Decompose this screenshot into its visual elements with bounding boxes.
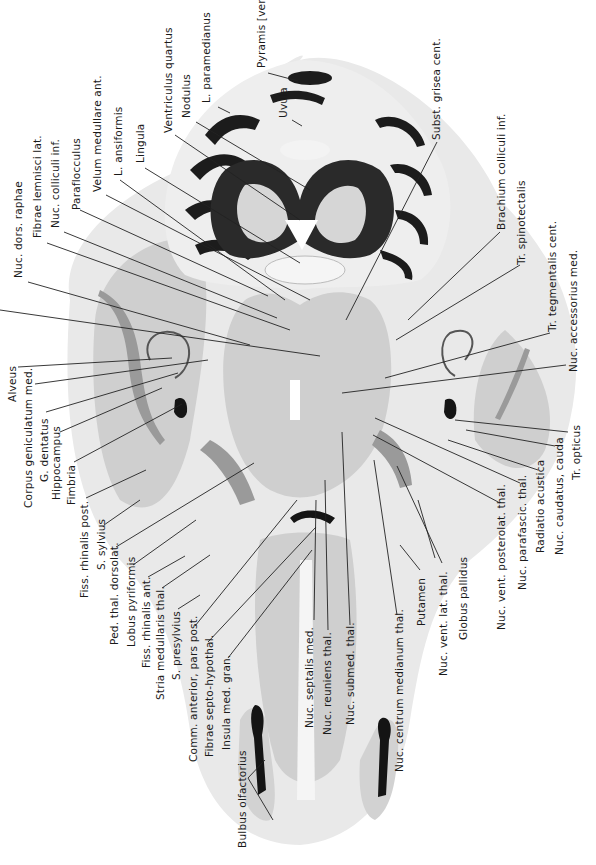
label-nuc-accessorius-med: Nuc. accessorius med. (567, 250, 579, 372)
label-lingula: Lingula (134, 124, 146, 164)
label-corpus-geniculatum-med: Corpus geniculatum med. (22, 368, 34, 508)
label-ventriculus-quartus: Ventriculus quartus (162, 27, 174, 133)
nodulus (280, 140, 330, 160)
label-subst-grisea-cent: Subst. grisea cent. (430, 38, 442, 140)
third-ventricle (290, 380, 300, 420)
label-nodulus: Nodulus (180, 74, 192, 118)
label-nuc-colliculi-inf: Nuc. colliculi inf. (49, 139, 61, 228)
label-nuc-dors-raphae: Nuc. dors. raphae (12, 181, 24, 278)
label-nuc-reuniens-thal: Nuc. reuniens thal. (321, 632, 333, 735)
label-g-dentatus: G. dentatus (38, 418, 50, 482)
label-fibrae-lemnisci-lat: Fibrae lemnisci lat. (31, 135, 43, 238)
label-nuc-submed-thal: Nuc. submed. thal. (344, 622, 356, 725)
label-fimbria: Fimbria (65, 465, 77, 505)
label-putamen: Putamen (415, 578, 427, 626)
label-fiss-rhinalis-post: Fiss. rhinalis post. (78, 501, 90, 598)
label-ped-thal-dorsolat: Ped. thal. dorsolat. (108, 542, 120, 645)
label-nuc-centrum-medianum-thal: Nuc. centrum medianum thal. (393, 609, 405, 772)
label-nuc-parafascic-thal: Nuc. parafascic. thal. (516, 475, 528, 590)
label-stria-medullaris-thal: Stria medullaris thal. (154, 586, 166, 700)
label-alveus: Alveus (6, 366, 18, 402)
label-paraflocculus: Paraflocculus (70, 138, 82, 210)
label-nuc-vent-lat-thal: Nuc. vent. lat. thal. (437, 571, 449, 676)
label-tr-tegmentalis-cent: Tr. tegmentalis cent. (546, 221, 558, 333)
label-bulbus-olfactorius: Bulbus olfactorius (236, 750, 248, 848)
label-nuc-vent-posterolat-thal: Nuc. vent. posterolat. thal. (495, 484, 507, 630)
left-hippocampal-ventricle (174, 398, 187, 418)
lingula (265, 256, 345, 284)
label-tr-opticus: Tr. opticus (570, 425, 582, 481)
label-nuc-caudatus-cauda: Nuc. caudatus, cauda (553, 437, 565, 555)
label-velum-medullare-ant: Velum medullare ant. (91, 75, 103, 192)
label-lobus-pyriformis: Lobus pyriformis (125, 557, 137, 647)
label-s-presylvius: S. presylvius (170, 611, 182, 680)
label-globus-pallidus: Globus pallidus (457, 557, 469, 640)
label-comm-anterior-pars-post: Comm. anterior, pars post. (187, 615, 199, 762)
label-hippocampus: Hippocampus (50, 426, 62, 500)
label-uvula: Uvula (277, 87, 289, 118)
label-tr-spinotectalis: Tr. spinotectalis (515, 180, 527, 266)
label-l-paramedianus: L. paramedianus (200, 12, 212, 103)
label-l-ansiformis: L. ansiformis (112, 107, 124, 176)
label-nuc-septalis-med: Nuc. septalis med. (303, 627, 315, 728)
label-fibrae-septo-hypothal: Fibrae septo-hypothal. (203, 635, 215, 757)
label-fiss-rhinalis-ant: Fiss. rhinalis ant. (140, 576, 152, 668)
label-pyramis-vermis: Pyramis [vermis] (255, 0, 267, 68)
label-radiatio-acustica: Radiatio acustica (534, 460, 546, 553)
brain-section-plate: Nuc. dors. raphae Fibrae lemnisci lat. N… (0, 0, 596, 865)
label-brachium-colliculi-inf: Brachium colliculi inf. (495, 113, 507, 230)
label-insula-med-gran: Insula med. gran. (220, 655, 232, 750)
label-s-sylvius: S. sylvius (95, 519, 107, 570)
